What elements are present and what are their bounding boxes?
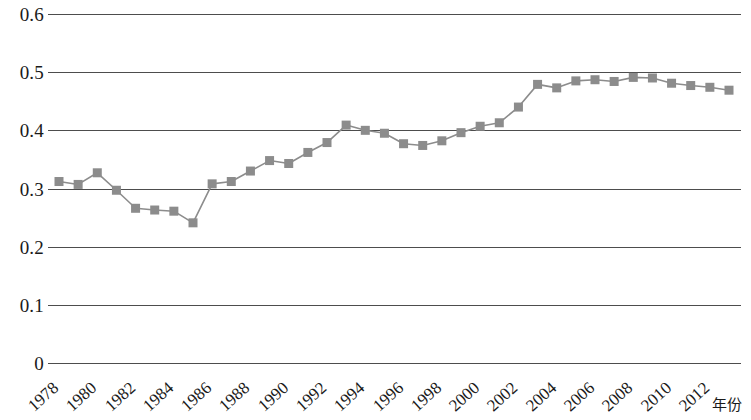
data-point-marker: [725, 86, 734, 95]
y-axis-tick-label: 0.4: [20, 121, 44, 140]
x-axis-tick-label: 1998: [408, 379, 445, 414]
data-point-marker: [112, 186, 121, 195]
data-point-marker: [399, 139, 408, 148]
data-point-marker: [418, 141, 427, 150]
data-point-marker: [552, 83, 561, 92]
plot-area: [48, 0, 741, 380]
x-axis-tick-label: 1990: [255, 379, 292, 414]
data-point-marker: [495, 118, 504, 127]
x-axis-tick-label: 1994: [331, 379, 368, 414]
data-point-marker: [131, 204, 140, 213]
data-point-marker: [246, 167, 255, 176]
data-point-marker: [648, 73, 657, 82]
data-point-marker: [457, 128, 466, 137]
data-point-marker: [55, 177, 64, 186]
y-axis-tick-label: 0.6: [20, 5, 44, 24]
data-point-marker: [189, 218, 198, 227]
x-axis-tick-label: 2010: [637, 379, 674, 414]
x-axis-tick-label: 1980: [63, 379, 100, 414]
data-point-marker: [667, 79, 676, 88]
x-axis-tick-label: 2012: [676, 379, 713, 414]
y-axis-tick-labels: 0.60.50.40.30.20.10: [0, 0, 44, 380]
data-point-marker: [208, 179, 217, 188]
data-point-marker: [169, 207, 178, 216]
x-axis-tick-labels: 1978198019821984198619881990199219941996…: [0, 363, 751, 420]
series-line: [59, 77, 729, 222]
y-axis-tick-label: 0.5: [20, 63, 44, 82]
data-point-marker: [686, 81, 695, 90]
x-axis-tick-label: 2004: [523, 379, 560, 414]
data-point-marker: [74, 180, 83, 189]
data-point-marker: [323, 138, 332, 147]
x-axis-tick-label: 2000: [446, 379, 483, 414]
data-point-marker: [610, 77, 619, 86]
x-axis-tick-label: 2006: [561, 379, 598, 414]
line-series-gini: [48, 0, 741, 380]
data-point-marker: [591, 75, 600, 84]
x-axis-tick-label: 1986: [178, 379, 215, 414]
data-point-marker: [380, 129, 389, 138]
data-point-marker: [361, 126, 370, 135]
data-point-marker: [303, 148, 312, 157]
data-point-marker: [150, 206, 159, 215]
data-point-marker: [342, 121, 351, 130]
x-axis-tick-label: 1992: [293, 379, 330, 414]
x-axis-tick-label: 1996: [369, 379, 406, 414]
x-axis-title: 年份: [712, 398, 742, 413]
data-point-marker: [705, 83, 714, 92]
data-point-marker: [629, 73, 638, 82]
y-axis-tick-label: 0.1: [20, 295, 44, 314]
y-axis-tick-label: 0.3: [20, 179, 44, 198]
x-axis-tick-label: 1978: [25, 379, 62, 414]
data-point-marker: [533, 80, 542, 89]
y-axis-tick-label: 0.2: [20, 237, 44, 256]
chart-container: 0.60.50.40.30.20.10 19781980198219841986…: [0, 0, 751, 420]
x-axis-tick-label: 1982: [101, 379, 138, 414]
x-axis-tick-label: 1984: [140, 379, 177, 414]
data-point-marker: [437, 136, 446, 145]
data-point-marker: [227, 177, 236, 186]
x-axis-tick-label: 2008: [599, 379, 636, 414]
data-point-marker: [93, 168, 102, 177]
x-axis-tick-label: 2002: [484, 379, 521, 414]
data-point-marker: [514, 103, 523, 112]
data-point-marker: [476, 122, 485, 131]
data-point-marker: [284, 159, 293, 168]
data-point-marker: [265, 156, 274, 165]
x-axis-tick-label: 1988: [216, 379, 253, 414]
data-point-marker: [571, 76, 580, 85]
